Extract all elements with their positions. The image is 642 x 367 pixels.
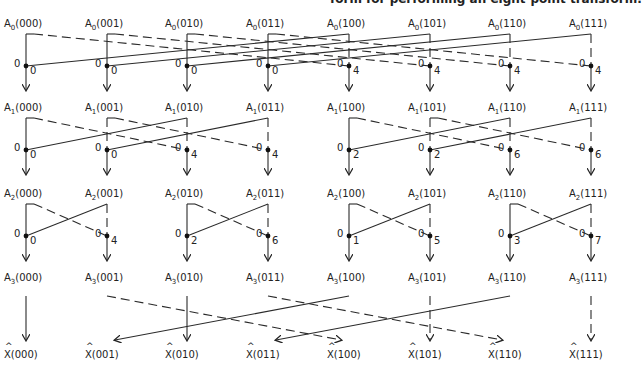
- node-label-A2-110: A2(110): [488, 188, 526, 202]
- weight-left: 0: [175, 228, 181, 239]
- weight-right: 4: [272, 149, 278, 160]
- weight-right: 4: [111, 235, 117, 246]
- weight-right: 2: [434, 149, 440, 160]
- node-dot: [589, 148, 594, 153]
- weight-left: 0: [418, 142, 424, 153]
- weight-right: 4: [514, 65, 520, 76]
- weight-left: 0: [95, 228, 101, 239]
- node-dot: [185, 64, 190, 69]
- weight-left: 0: [256, 142, 262, 153]
- node-label-A0-100: A0(100): [327, 18, 365, 32]
- node-dot: [24, 64, 29, 69]
- weight-right: 6: [595, 149, 601, 160]
- node-dot: [508, 234, 513, 239]
- weight-right: 0: [30, 65, 36, 76]
- node-dot: [347, 234, 352, 239]
- weight-right: 0: [30, 149, 36, 160]
- node-dot: [589, 64, 594, 69]
- weight-left: 0: [337, 142, 343, 153]
- node-label-A1-010: A1(010): [165, 102, 203, 116]
- node-dot: [347, 64, 352, 69]
- node-label-A1-001: A1(001): [85, 102, 123, 116]
- node-label-A0-010: A0(010): [165, 18, 203, 32]
- node-label-A1-000: A1(000): [4, 102, 42, 116]
- weight-left: 0: [337, 228, 343, 239]
- node-label-A1-011: A1(011): [246, 102, 284, 116]
- node-dot: [105, 234, 110, 239]
- node-label-A2-000: A2(000): [4, 188, 42, 202]
- output-label-101: ^X(101): [408, 349, 442, 360]
- weight-left: 0: [175, 142, 181, 153]
- weight-left: 0: [95, 142, 101, 153]
- node-dot: [185, 234, 190, 239]
- weight-right: 0: [111, 65, 117, 76]
- node-label-A3-100: A3(100): [327, 272, 365, 286]
- weight-right: 0: [272, 65, 278, 76]
- node-label-A3-110: A3(110): [488, 272, 526, 286]
- weight-left: 0: [256, 228, 262, 239]
- node-dot: [347, 148, 352, 153]
- weight-left: 0: [498, 142, 504, 153]
- node-dot: [185, 148, 190, 153]
- node-dot: [105, 64, 110, 69]
- node-label-A2-011: A2(011): [246, 188, 284, 202]
- weight-right: 2: [353, 149, 359, 160]
- node-label-A0-001: A0(001): [85, 18, 123, 32]
- weight-right: 7: [595, 235, 601, 246]
- node-label-A0-110: A0(110): [488, 18, 526, 32]
- node-dot: [266, 148, 271, 153]
- weight-left: 0: [95, 58, 101, 69]
- weight-left: 0: [579, 228, 585, 239]
- node-dot: [428, 64, 433, 69]
- output-label-000: ^X(000): [4, 349, 38, 360]
- node-label-A2-101: A2(101): [408, 188, 446, 202]
- node-label-A1-100: A1(100): [327, 102, 365, 116]
- node-label-A1-111: A1(111): [569, 102, 607, 116]
- node-label-A2-100: A2(100): [327, 188, 365, 202]
- weight-right: 0: [30, 235, 36, 246]
- node-dot: [24, 148, 29, 153]
- node-label-A0-111: A0(111): [569, 18, 607, 32]
- weight-left: 0: [418, 228, 424, 239]
- weight-left: 0: [14, 228, 20, 239]
- weight-left: 0: [579, 58, 585, 69]
- node-label-A3-010: A3(010): [165, 272, 203, 286]
- node-label-A2-001: A2(001): [85, 188, 123, 202]
- weight-left: 0: [498, 58, 504, 69]
- node-dot: [266, 234, 271, 239]
- weight-right: 4: [595, 65, 601, 76]
- node-dot: [428, 148, 433, 153]
- weight-right: 2: [191, 235, 197, 246]
- weight-left: 0: [175, 58, 181, 69]
- weight-right: 6: [514, 149, 520, 160]
- node-label-A0-011: A0(011): [246, 18, 284, 32]
- weight-left: 0: [256, 58, 262, 69]
- weight-right: 4: [191, 149, 197, 160]
- node-label-A2-010: A2(010): [165, 188, 203, 202]
- weight-right: 4: [353, 65, 359, 76]
- node-label-A0-000: A0(000): [4, 18, 42, 32]
- weight-left: 0: [498, 228, 504, 239]
- weight-right: 3: [514, 235, 520, 246]
- weight-left: 0: [337, 58, 343, 69]
- weight-right: 0: [111, 149, 117, 160]
- node-dot: [266, 64, 271, 69]
- node-label-A3-011: A3(011): [246, 272, 284, 286]
- node-label-A1-110: A1(110): [488, 102, 526, 116]
- weight-right: 4: [434, 65, 440, 76]
- weight-right: 0: [191, 65, 197, 76]
- weight-right: 1: [353, 235, 359, 246]
- node-dot: [508, 148, 513, 153]
- reversal-cross: [107, 296, 341, 340]
- node-label-A3-001: A3(001): [85, 272, 123, 286]
- weight-left: 0: [14, 58, 20, 69]
- output-label-001: ^X(001): [85, 349, 119, 360]
- node-label-A3-000: A3(000): [4, 272, 42, 286]
- node-label-A0-101: A0(101): [408, 18, 446, 32]
- weight-left: 0: [579, 142, 585, 153]
- output-label-010: ^X(010): [165, 349, 199, 360]
- weight-right: 6: [272, 235, 278, 246]
- weight-right: 5: [434, 235, 440, 246]
- node-dot: [105, 148, 110, 153]
- node-dot: [589, 234, 594, 239]
